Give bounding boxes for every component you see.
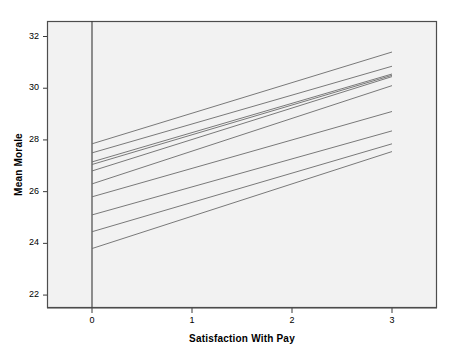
y-axis-tick-label: 28 <box>13 134 39 144</box>
y-axis-tick-label: 32 <box>13 31 39 41</box>
plot-background <box>47 21 437 308</box>
x-axis-tick-label: 1 <box>182 315 202 325</box>
line-chart-plot <box>0 0 456 359</box>
y-axis-tick-label: 22 <box>13 289 39 299</box>
x-axis-tick-label: 0 <box>82 315 102 325</box>
x-axis-title: Satisfaction With Pay <box>47 333 437 344</box>
y-axis-tick-label: 26 <box>13 186 39 196</box>
y-axis-tick-label: 24 <box>13 237 39 247</box>
y-axis-tick-label: 30 <box>13 82 39 92</box>
x-axis-tick-label: 3 <box>382 315 402 325</box>
y-axis-title: Mean Morale <box>9 21 27 308</box>
chart-container: Mean Morale Satisfaction With Pay 222426… <box>0 0 456 359</box>
x-axis-tick-label: 2 <box>282 315 302 325</box>
